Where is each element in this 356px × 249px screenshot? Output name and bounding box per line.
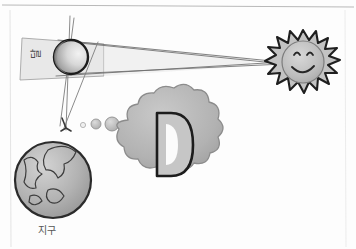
earth-disc [15, 142, 91, 218]
earth [15, 142, 91, 218]
eclipse-diagram-canvas: 달 지구 [0, 0, 356, 249]
thought-cloud [117, 84, 223, 176]
moon [54, 40, 88, 74]
frame-top-rule [2, 5, 354, 7]
frame-left-rule [10, 10, 11, 247]
diagram-svg [0, 0, 356, 249]
small-circle-1 [80, 122, 85, 127]
sun-disc [282, 41, 324, 83]
small-circle-2 [91, 119, 101, 129]
small-circles-row [80, 117, 119, 131]
frame-right-rule [345, 10, 346, 247]
sun [265, 30, 340, 93]
